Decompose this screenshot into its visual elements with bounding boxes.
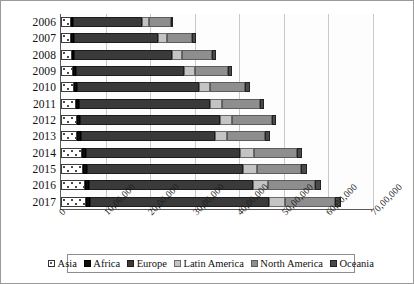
bar-segment-north[interactable] xyxy=(167,33,193,43)
bar-segment-europe[interactable] xyxy=(87,164,243,174)
stacked-bar[interactable] xyxy=(61,180,321,190)
bar-segment-oceania[interactable] xyxy=(260,99,264,109)
bar-segment-europe[interactable] xyxy=(76,66,185,76)
bar-segment-europe[interactable] xyxy=(81,131,216,141)
bar-row xyxy=(61,128,372,144)
legend-item-latin[interactable]: Latin America xyxy=(174,258,244,269)
bar-segment-north[interactable] xyxy=(227,131,265,141)
legend-label: Europe xyxy=(137,258,167,269)
bar-segment-oceania[interactable] xyxy=(265,131,269,141)
bar-segment-asia[interactable] xyxy=(61,99,76,109)
bar-segment-latin[interactable] xyxy=(215,131,227,141)
bar-segment-oceania[interactable] xyxy=(171,17,174,27)
stacked-bar[interactable] xyxy=(61,131,270,141)
bar-segment-asia[interactable] xyxy=(61,131,77,141)
bar-segment-latin[interactable] xyxy=(240,148,254,158)
legend-item-europe[interactable]: Europe xyxy=(127,258,167,269)
y-axis-label-2017: 2017 xyxy=(4,194,56,210)
bar-segment-latin[interactable] xyxy=(269,197,284,207)
bar-segment-oceania[interactable] xyxy=(212,50,216,60)
bar-segment-latin[interactable] xyxy=(210,99,222,109)
legend-swatch-north-icon xyxy=(251,260,258,267)
chart-container: 2006200720082009201020112012201320142015… xyxy=(0,0,414,284)
y-axis-label-2015: 2015 xyxy=(4,161,56,177)
bar-segment-asia[interactable] xyxy=(61,17,71,27)
legend-swatch-asia-icon xyxy=(48,260,55,267)
y-axis-label-2008: 2008 xyxy=(4,47,56,63)
x-tick-label: 70,00,000 xyxy=(369,182,404,217)
bar-segment-asia[interactable] xyxy=(61,148,82,158)
stacked-bar[interactable] xyxy=(61,99,264,109)
y-axis-label-2006: 2006 xyxy=(4,14,56,30)
bar-segment-europe[interactable] xyxy=(86,148,240,158)
bar-segment-asia[interactable] xyxy=(61,50,72,60)
bar-segment-oceania[interactable] xyxy=(297,148,302,158)
legend-item-asia[interactable]: Asia xyxy=(48,258,77,269)
stacked-bar[interactable] xyxy=(61,50,216,60)
bar-segment-europe[interactable] xyxy=(74,33,158,43)
legend-item-north[interactable]: North America xyxy=(251,258,323,269)
bar-segment-europe[interactable] xyxy=(77,82,198,92)
bar-row xyxy=(61,145,372,161)
y-axis-label-2016: 2016 xyxy=(4,177,56,193)
bar-segment-europe[interactable] xyxy=(74,50,171,60)
legend-label: Africa xyxy=(93,258,120,269)
y-axis-label-2012: 2012 xyxy=(4,112,56,128)
bar-row xyxy=(61,47,372,63)
bar-segment-asia[interactable] xyxy=(61,115,77,125)
bar-segment-oceania[interactable] xyxy=(245,82,249,92)
legend-label: Oceania xyxy=(340,258,374,269)
stacked-bar[interactable] xyxy=(61,148,302,158)
legend-label: North America xyxy=(260,258,323,269)
bar-segment-north[interactable] xyxy=(210,82,245,92)
bar-segment-asia[interactable] xyxy=(61,164,83,174)
stacked-bar[interactable] xyxy=(61,115,276,125)
bar-segment-asia[interactable] xyxy=(61,197,86,207)
legend-item-africa[interactable]: Africa xyxy=(84,258,120,269)
bar-segment-oceania[interactable] xyxy=(272,115,277,125)
bar-segment-europe[interactable] xyxy=(79,99,210,109)
bar-segment-latin[interactable] xyxy=(158,33,167,43)
bar-row xyxy=(61,112,372,128)
stacked-bar[interactable] xyxy=(61,33,196,43)
bar-segment-asia[interactable] xyxy=(61,180,85,190)
y-axis-label-2007: 2007 xyxy=(4,30,56,46)
stacked-bar[interactable] xyxy=(61,82,250,92)
bar-segment-north[interactable] xyxy=(182,50,212,60)
bar-segment-latin[interactable] xyxy=(220,115,232,125)
bar-rows xyxy=(61,14,372,209)
legend-item-oceania[interactable]: Oceania xyxy=(330,258,374,269)
bar-segment-latin[interactable] xyxy=(142,17,149,27)
bar-segment-europe[interactable] xyxy=(73,17,141,27)
bar-segment-asia[interactable] xyxy=(61,66,73,76)
stacked-bar[interactable] xyxy=(61,164,307,174)
bar-segment-latin[interactable] xyxy=(199,82,211,92)
legend-swatch-europe-icon xyxy=(127,260,134,267)
bar-segment-north[interactable] xyxy=(195,66,228,76)
bar-segment-north[interactable] xyxy=(222,99,259,109)
bar-segment-north[interactable] xyxy=(232,115,271,125)
bar-row xyxy=(61,14,372,30)
bar-segment-latin[interactable] xyxy=(172,50,182,60)
legend-swatch-oceania-icon xyxy=(330,260,337,267)
bar-segment-europe[interactable] xyxy=(80,115,220,125)
bar-segment-asia[interactable] xyxy=(61,82,74,92)
bar-segment-latin[interactable] xyxy=(184,66,195,76)
bar-segment-oceania[interactable] xyxy=(228,66,232,76)
legend-label: Asia xyxy=(58,258,77,269)
bar-row xyxy=(61,63,372,79)
bar-row xyxy=(61,96,372,112)
bar-segment-oceania[interactable] xyxy=(301,164,306,174)
y-axis-label-2009: 2009 xyxy=(4,63,56,79)
stacked-bar[interactable] xyxy=(61,66,232,76)
bar-segment-asia[interactable] xyxy=(61,33,71,43)
bar-segment-oceania[interactable] xyxy=(192,33,195,43)
stacked-bar[interactable] xyxy=(61,17,173,27)
bar-row xyxy=(61,161,372,177)
bar-segment-oceania[interactable] xyxy=(315,180,321,190)
y-axis-label-2013: 2013 xyxy=(4,128,56,144)
bar-segment-north[interactable] xyxy=(257,164,301,174)
bar-segment-latin[interactable] xyxy=(243,164,257,174)
bar-segment-north[interactable] xyxy=(254,148,297,158)
bar-segment-north[interactable] xyxy=(149,17,171,27)
